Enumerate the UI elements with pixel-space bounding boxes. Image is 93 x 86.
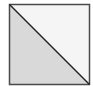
diagonal-split-square-diagram [0,0,93,86]
